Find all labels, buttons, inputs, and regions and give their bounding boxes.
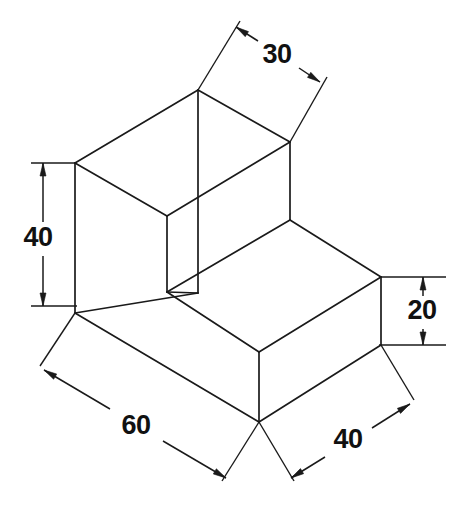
- arrowhead-height-tall-end: [40, 293, 46, 306]
- object-edge-step-top-right: [290, 220, 381, 277]
- arrowhead-height-step-start: [420, 277, 426, 290]
- object-edge-base-front-left: [75, 313, 259, 422]
- extension-line-depth-top-0: [198, 21, 240, 90]
- object-edge-step-top-left: [167, 292, 259, 352]
- object-edge-base-inner-diag: [167, 292, 198, 293]
- extension-line-width-front-left-0: [40, 313, 75, 366]
- dimension-label-depth-top: 30: [262, 39, 291, 69]
- object-edge-step-top-front: [259, 277, 381, 352]
- object-edge-group: [75, 90, 381, 422]
- extension-line-depth-top-1: [290, 77, 327, 142]
- extension-line-width-front-right-0: [259, 422, 294, 481]
- technical-drawing-svg: 30 40 20 60 40: [0, 0, 458, 508]
- arrowhead-height-step-end: [420, 332, 426, 345]
- arrowhead-width-front-right-start: [291, 469, 304, 478]
- dimension-label-group: 30 40 20 60 40: [23, 39, 436, 454]
- arrowhead-height-tall-start: [40, 163, 46, 176]
- dimension-label-width-front-left: 60: [121, 410, 150, 440]
- arrowhead-width-front-left-end: [213, 469, 226, 478]
- object-edge-top-face-back-right: [198, 90, 290, 142]
- dimension-label-height-tall: 40: [23, 222, 52, 252]
- extension-line-width-front-right-1: [381, 345, 414, 400]
- arrowhead-depth-top-end: [307, 72, 320, 82]
- arrowhead-depth-top-start: [236, 27, 249, 37]
- arrowhead-width-front-left-start: [44, 370, 57, 379]
- dimension-label-width-front-right: 40: [333, 424, 362, 454]
- object-edge-base-front-right: [259, 345, 381, 422]
- object-edge-base-left-edge: [75, 293, 198, 313]
- object-edge-top-face-back-left: [75, 90, 198, 163]
- dimension-label-height-step: 20: [407, 295, 436, 325]
- isometric-drawing-canvas: 30 40 20 60 40: [0, 0, 458, 508]
- object-edge-top-face-front-left: [75, 163, 167, 216]
- arrowhead-width-front-right-end: [397, 404, 410, 413]
- object-edge-top-face-front-right: [167, 142, 290, 216]
- extension-line-width-front-left-1: [222, 422, 259, 481]
- object-edge-step-top-back: [167, 220, 290, 292]
